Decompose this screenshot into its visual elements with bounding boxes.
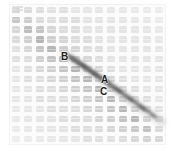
grid-cell — [70, 65, 82, 75]
cell-pad — [71, 86, 79, 92]
cell-pad — [59, 76, 67, 82]
grid-cell — [93, 25, 105, 35]
cell-pad — [119, 56, 127, 62]
cell-pad — [59, 136, 67, 142]
grid-cell — [129, 65, 141, 75]
grid-cell — [93, 104, 105, 114]
grid-cell — [22, 65, 34, 75]
cell-pad — [119, 26, 127, 32]
cell-pad — [12, 17, 20, 23]
grid-cell — [46, 114, 58, 124]
grid-cell — [129, 55, 141, 65]
cell-pad — [47, 7, 55, 13]
cell-pad — [83, 66, 91, 72]
cell-pad — [131, 36, 139, 42]
grid-cell — [70, 25, 82, 35]
grid-cell — [22, 25, 34, 35]
grid-cell — [93, 5, 105, 15]
grid-cell — [58, 5, 70, 15]
cell-pad — [36, 56, 44, 62]
cell-pad — [107, 7, 115, 13]
grid-cell — [141, 134, 153, 144]
cell-pad — [47, 76, 55, 82]
cell-pad — [107, 76, 115, 82]
cell-pad — [71, 136, 79, 142]
grid-cell — [22, 134, 34, 144]
cell-pad — [36, 66, 44, 72]
cell-pad — [155, 7, 163, 13]
grid-cell — [153, 114, 165, 124]
grid-cell — [46, 75, 58, 85]
cell-pad — [131, 96, 139, 102]
grid-cell — [70, 104, 82, 114]
cell-pad — [12, 46, 20, 52]
cell-pad — [36, 76, 44, 82]
cell-pad — [83, 26, 91, 32]
cell-pad — [107, 106, 115, 112]
cell-pad — [131, 66, 139, 72]
cell-pad — [143, 26, 151, 32]
grid-cell — [117, 35, 129, 45]
cell-pad — [36, 26, 44, 32]
grid-cell — [93, 124, 105, 134]
grid-cell — [10, 45, 22, 55]
cell-pad — [143, 136, 151, 142]
grid-cell — [117, 94, 129, 104]
grid-cell — [117, 134, 129, 144]
grid-cell — [70, 124, 82, 134]
grid-cell — [129, 124, 141, 134]
grid-cell — [58, 134, 70, 144]
cell-pad — [24, 7, 32, 13]
cell-pad — [47, 56, 55, 62]
cell-pad — [107, 86, 115, 92]
cell-pad — [83, 76, 91, 82]
grid-cell — [58, 84, 70, 94]
cell-pad — [143, 46, 151, 52]
cell-pad — [36, 36, 44, 42]
grid-cell — [46, 104, 58, 114]
grid-cell — [82, 94, 94, 104]
cell-pad — [143, 76, 151, 82]
cell-pad — [143, 7, 151, 13]
cell-pad — [24, 126, 32, 132]
grid-cell — [82, 5, 94, 15]
cell-pad — [12, 106, 20, 112]
grid-cell — [93, 15, 105, 25]
cell-pad — [143, 56, 151, 62]
grid-cell — [141, 55, 153, 65]
grid-cell — [46, 15, 58, 25]
grid-cell — [34, 94, 46, 104]
cell-pad — [95, 46, 103, 52]
cell-pad — [155, 76, 163, 82]
cell-pad — [59, 106, 67, 112]
cell-pad — [36, 126, 44, 132]
cell-pad — [47, 116, 55, 122]
cell-pad — [24, 56, 32, 62]
cell-pad — [71, 46, 79, 52]
grid-cell — [141, 75, 153, 85]
grid-cell — [10, 55, 22, 65]
grid-cell — [93, 45, 105, 55]
cell-pad — [155, 46, 163, 52]
cell-pad — [71, 26, 79, 32]
cell-pad — [83, 86, 91, 92]
cell-pad — [47, 17, 55, 23]
grid-cell — [46, 5, 58, 15]
cell-pad — [119, 46, 127, 52]
cell-pad — [131, 46, 139, 52]
grid-cell — [22, 45, 34, 55]
grid-cell — [58, 15, 70, 25]
cell-pad — [143, 36, 151, 42]
grid-cell — [58, 25, 70, 35]
grid-cell — [129, 25, 141, 35]
grid-cell — [34, 35, 46, 45]
cell-pad — [83, 17, 91, 23]
cell-pad — [131, 76, 139, 82]
cell-pad — [107, 36, 115, 42]
cell-pad — [131, 116, 139, 122]
grid-cell — [10, 15, 22, 25]
cell-pad — [131, 106, 139, 112]
grid-cell — [82, 15, 94, 25]
cell-pad — [83, 7, 91, 13]
grid-cell — [46, 35, 58, 45]
